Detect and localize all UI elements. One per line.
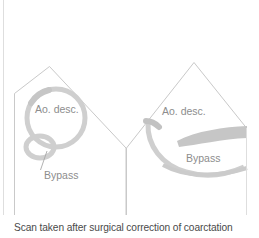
right-scan-panel: Ao. desc. Bypass	[127, 63, 248, 216]
ultrasound-scan-figure: Ao. desc. Bypass Ao. desc. Bypass	[0, 0, 259, 238]
left-bypass-label: Bypass	[44, 169, 78, 181]
right-bypass-label: Bypass	[186, 152, 220, 164]
figure-caption: Scan taken after surgical correction of …	[14, 222, 259, 234]
bypass-graft-band	[177, 126, 247, 147]
ultrasound-figure-page: Ao. desc. Bypass Ao. desc. Bypass Scan t…	[0, 0, 259, 238]
right-aorta-descendens-label: Ao. desc.	[162, 105, 206, 117]
aorta-superior-wall	[31, 90, 49, 103]
left-aorta-descendens-label: Ao. desc.	[35, 103, 79, 115]
left-scan-panel: Ao. desc. Bypass	[4, 0, 127, 215]
bypass-leader-line	[41, 151, 48, 170]
